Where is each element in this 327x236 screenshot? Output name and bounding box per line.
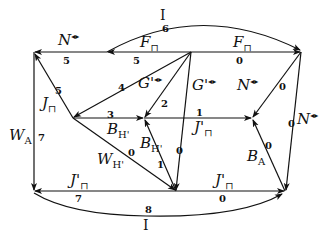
label-diag-four: G'◂▸ xyxy=(138,76,162,91)
weight-bottom-left: 7 xyxy=(75,194,82,204)
weight-diag-left-top: 5 xyxy=(55,86,62,96)
edge-top-arc xyxy=(107,25,300,52)
weight-bottom-arc: 8 xyxy=(145,205,152,215)
edge-right-diag xyxy=(253,52,301,117)
label-b-diag: BH' xyxy=(140,136,163,154)
weight-top-mid: 5 xyxy=(133,56,140,66)
label-w-diag: WH' xyxy=(97,152,124,170)
label-vert-center: G'◂▸ xyxy=(192,78,216,93)
graph-edges xyxy=(0,0,327,236)
weight-mid-right: 1 xyxy=(196,108,203,118)
label-bottom-right: J'⊓ xyxy=(215,173,234,191)
label-top-mid: F⊓ xyxy=(140,35,159,53)
edge-vert-center xyxy=(176,52,191,190)
edge-bottom-arc xyxy=(34,193,282,216)
label-right-diag: N◂▸ xyxy=(237,78,258,93)
weight-b-diag: 1 xyxy=(157,160,164,170)
label-top-right: F⊓ xyxy=(233,35,252,53)
label-mid-left: BH' xyxy=(107,122,130,140)
weight-diag-two: 2 xyxy=(161,99,168,109)
label-diag-left-top: J⊓ xyxy=(42,96,56,114)
label-top-arc: I xyxy=(160,8,166,22)
weight-bottom-right: 0 xyxy=(219,194,226,204)
diagram-canvas: I 6 N◂▸ 5 F⊓ 5 F⊓ 0 J⊓ 5 G'◂▸ 4 2 G'◂▸ 0… xyxy=(0,0,327,236)
weight-top-left: 5 xyxy=(63,56,70,66)
weight-right-diag: 0 xyxy=(279,82,286,92)
label-right-vert: N◂▸ xyxy=(297,112,318,127)
label-bottom-left: J'⊓ xyxy=(70,173,89,191)
weight-mid-left: 3 xyxy=(107,110,114,120)
label-top-left: N◂▸ xyxy=(58,33,79,48)
weight-vert-center: 0 xyxy=(176,146,183,156)
weight-left-vert: 7 xyxy=(38,133,45,143)
weight-w-diag: 0 xyxy=(128,148,135,158)
weight-top-right: 0 xyxy=(236,56,243,66)
weight-diag-four: 4 xyxy=(118,83,125,93)
weight-ba-diag: 0 xyxy=(265,141,272,151)
weight-top-arc: 6 xyxy=(162,24,169,34)
label-ba-diag: BA xyxy=(247,149,265,167)
weight-right-vert: 0 xyxy=(288,119,295,129)
label-mid-right: J'⊓ xyxy=(194,120,213,138)
label-bottom-arc: I xyxy=(143,218,149,232)
label-left-vert: WA xyxy=(9,128,32,146)
